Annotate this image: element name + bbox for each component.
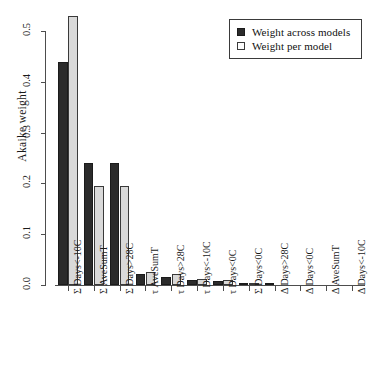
legend-label: Weight across models: [252, 26, 350, 38]
x-tick-label: Σ Days<-10C: [72, 239, 83, 294]
legend-item: Weight across models: [237, 25, 354, 39]
x-tick-label: τ Days<0C: [227, 250, 238, 294]
y-tick: [41, 183, 46, 184]
y-tick: [41, 285, 46, 286]
y-tick: [41, 133, 46, 134]
x-tick-label: Σ Days>28C: [124, 243, 135, 294]
x-tick: [352, 286, 353, 291]
y-tick-label: 0.1: [21, 220, 32, 246]
bar: [136, 274, 146, 285]
x-tick: [68, 286, 69, 291]
legend-item: Weight per model: [237, 39, 354, 53]
bar: [110, 163, 120, 285]
x-tick-label: Δ Days>28C: [279, 243, 290, 294]
x-tick: [300, 286, 301, 291]
x-tick: [275, 286, 276, 291]
x-tick-label: τ Days>28C: [175, 245, 186, 294]
x-tick: [223, 286, 224, 291]
y-tick-label: 0.4: [21, 67, 32, 93]
x-tick-label: Σ Days<0C: [253, 248, 264, 294]
x-tick: [197, 286, 198, 291]
y-tick-label: 0.3: [21, 118, 32, 144]
x-tick: [145, 286, 146, 291]
y-tick-label: 0.0: [21, 271, 32, 297]
akaike-weight-bar-chart: Akaike weight 0.00.10.20.30.40.5 Σ Days<…: [0, 0, 381, 375]
legend: Weight across models Weight per model: [229, 19, 362, 59]
y-tick-label: 0.5: [21, 17, 32, 43]
x-tick-label: Δ Days<-10C: [356, 239, 367, 294]
x-tick: [171, 286, 172, 291]
bar: [213, 281, 223, 285]
y-tick: [41, 82, 46, 83]
x-tick-label: Δ AveSumT: [330, 245, 341, 294]
legend-label: Weight per model: [252, 40, 332, 52]
x-tick: [249, 286, 250, 291]
x-tick-label: τ AveSumT: [149, 247, 160, 294]
bar: [239, 283, 249, 285]
legend-swatch-light-icon: [237, 42, 245, 50]
x-tick-label: τ Days<-10C: [201, 241, 212, 294]
bar: [187, 280, 197, 285]
bar: [58, 62, 68, 286]
x-tick: [326, 286, 327, 291]
x-tick-label: Σ AveSumT: [98, 245, 109, 294]
x-tick: [94, 286, 95, 291]
y-axis-line: [45, 31, 46, 285]
y-tick: [41, 31, 46, 32]
bar: [161, 277, 171, 285]
bar: [265, 283, 275, 285]
y-tick: [41, 234, 46, 235]
bar: [84, 163, 94, 285]
x-tick: [120, 286, 121, 291]
y-tick-label: 0.2: [21, 169, 32, 195]
x-tick-label: Δ Days<0C: [304, 248, 315, 294]
legend-swatch-dark-icon: [237, 28, 245, 36]
